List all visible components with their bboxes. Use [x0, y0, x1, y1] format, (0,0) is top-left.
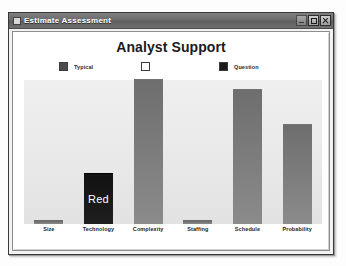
analyst-support-chart: Analyst Support Typical Question — [13, 32, 329, 250]
axis-label-staffing: Staffing — [173, 226, 223, 232]
window-title: Estimate Assessment — [24, 13, 111, 28]
bar-annotation: Red — [84, 193, 113, 205]
client-area: Analyst Support Typical Question — [12, 31, 330, 251]
axis-label-size: Size — [24, 226, 74, 232]
title-bar[interactable]: Estimate Assessment — [9, 13, 333, 29]
legend-swatch-icon — [219, 62, 228, 71]
legend-label: Question — [234, 64, 259, 70]
axis-label-probability: Probability — [272, 226, 322, 232]
application-window: Estimate Assessment Analyst Support Typi… — [8, 12, 334, 255]
bar-complexity — [134, 79, 163, 224]
legend-item-question: Question — [219, 62, 259, 71]
bar-technology: Red — [84, 173, 113, 224]
plot-area: Red — [24, 80, 322, 224]
maximize-icon[interactable] — [308, 15, 319, 26]
screenshot-root: Estimate Assessment Analyst Support Typi… — [0, 0, 346, 266]
close-icon[interactable] — [320, 15, 331, 26]
axis-label-technology: Technology — [74, 226, 124, 232]
app-icon — [12, 16, 21, 25]
legend-swatch-icon — [59, 62, 68, 71]
minimize-icon[interactable] — [296, 15, 307, 26]
legend-item-typical: Typical — [59, 62, 93, 71]
window-controls — [296, 15, 331, 26]
category-axis: SizeTechnologyComplexityStaffingSchedule… — [24, 224, 322, 238]
bar-series: Red — [24, 80, 322, 224]
chart-title: Analyst Support — [13, 39, 329, 55]
bar-schedule — [233, 89, 262, 224]
bar-probability — [283, 124, 312, 224]
chart-legend: Typical Question — [13, 62, 329, 74]
legend-label: Typical — [74, 64, 93, 70]
axis-label-complexity: Complexity — [123, 226, 173, 232]
legend-item-blank — [141, 62, 156, 71]
legend-swatch-icon — [141, 62, 150, 71]
axis-label-schedule: Schedule — [223, 226, 273, 232]
